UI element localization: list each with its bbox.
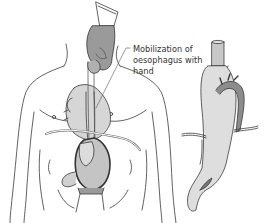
callout-line-1: Mobilization of [133,44,202,55]
callout-line-2: oesophagus with [133,55,202,66]
callout-label: Mobilization of oesophagus with hand [133,44,202,77]
medical-illustration [0,0,266,223]
stomach [62,138,110,212]
callout-line-3: hand [133,66,202,77]
hand [87,2,118,73]
